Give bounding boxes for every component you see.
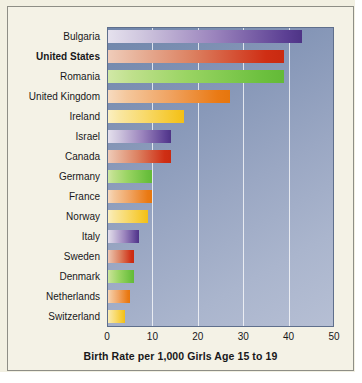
bar-row: [107, 47, 334, 67]
y-tick-label-germany: Germany: [59, 167, 100, 187]
bar-israel: [107, 130, 171, 143]
bar-united-states: [107, 50, 284, 63]
plot-area: [107, 27, 334, 327]
bar-row: [107, 147, 334, 167]
bar-row: [107, 227, 334, 247]
y-tick-label-ireland: Ireland: [69, 107, 100, 127]
bar-row: [107, 307, 334, 327]
y-tick-label-france: France: [69, 187, 100, 207]
y-tick-label-bulgaria: Bulgaria: [63, 27, 100, 47]
bar-italy: [107, 230, 139, 243]
y-tick-label-italy: Italy: [82, 227, 100, 247]
y-tick-label-switzerland: Switzerland: [48, 307, 100, 327]
bar-norway: [107, 210, 148, 223]
bar-row: [107, 107, 334, 127]
bar-united-kingdom: [107, 90, 230, 103]
y-tick-label-united-kingdom: United Kingdom: [29, 87, 100, 107]
bar-france: [107, 190, 152, 203]
x-tick-label-30: 30: [223, 331, 263, 342]
y-tick-label-netherlands: Netherlands: [46, 287, 100, 307]
bar-canada: [107, 150, 171, 163]
x-tick-label-40: 40: [269, 331, 309, 342]
y-tick-label-israel: Israel: [76, 127, 100, 147]
bar-row: [107, 67, 334, 87]
x-tick-label-10: 10: [132, 331, 172, 342]
page-margin-right: [355, 0, 362, 383]
y-tick-label-denmark: Denmark: [59, 267, 100, 287]
y-tick-label-norway: Norway: [66, 207, 100, 227]
y-tick-label-sweden: Sweden: [64, 247, 100, 267]
bar-row: [107, 187, 334, 207]
x-axis-title: Birth Rate per 1,000 Girls Age 15 to 19: [7, 350, 354, 362]
bar-row: [107, 127, 334, 147]
x-tick-label-50: 50: [314, 331, 354, 342]
bar-row: [107, 87, 334, 107]
bar-row: [107, 27, 334, 47]
x-tick-label-20: 20: [178, 331, 218, 342]
bar-sweden: [107, 250, 134, 263]
bar-row: [107, 267, 334, 287]
bar-row: [107, 207, 334, 227]
y-tick-label-canada: Canada: [65, 147, 100, 167]
y-tick-label-romania: Romania: [60, 67, 100, 87]
bar-romania: [107, 70, 284, 83]
figure: BulgariaUnited StatesRomaniaUnited Kingd…: [0, 0, 362, 383]
x-tick-label-0: 0: [87, 331, 127, 342]
bar-bulgaria: [107, 30, 302, 43]
y-tick-label-united-states: United States: [36, 47, 100, 67]
bar-denmark: [107, 270, 134, 283]
bar-row: [107, 247, 334, 267]
bar-germany: [107, 170, 152, 183]
bar-row: [107, 167, 334, 187]
bar-netherlands: [107, 290, 130, 303]
page-margin-bottom: [0, 372, 362, 383]
bar-row: [107, 287, 334, 307]
bar-ireland: [107, 110, 184, 123]
bar-switzerland: [107, 310, 125, 323]
